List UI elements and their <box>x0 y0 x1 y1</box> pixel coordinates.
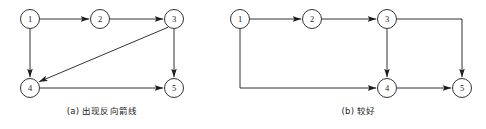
node-a-5[interactable]: 5 <box>165 79 184 98</box>
node-a-3-label: 3 <box>172 14 176 24</box>
edge-a-3-to-4-reverse <box>39 27 168 82</box>
panel-b-edges <box>240 19 462 88</box>
node-b-3-label: 3 <box>385 14 389 24</box>
panel-a-edges <box>30 19 174 88</box>
node-b-2[interactable]: 2 <box>303 10 322 29</box>
panel-b-caption: (b) 较好 <box>243 104 474 116</box>
node-a-1-label: 1 <box>28 14 32 24</box>
node-a-5-label: 5 <box>172 83 176 93</box>
node-b-5-label: 5 <box>460 83 464 93</box>
edge-b-1-to-4 <box>240 29 376 88</box>
edge-b-3-to-5 <box>397 19 462 77</box>
node-b-3[interactable]: 3 <box>378 10 397 29</box>
panel-a-caption: (a) 出现反向箭线 <box>0 104 204 116</box>
node-a-3[interactable]: 3 <box>165 10 184 29</box>
figure-root: 1 2 3 4 5 <box>0 0 486 129</box>
node-a-2[interactable]: 2 <box>91 10 110 29</box>
node-b-5[interactable]: 5 <box>453 79 472 98</box>
panel-b-nodes: 1 2 3 4 5 <box>231 10 472 98</box>
node-a-4[interactable]: 4 <box>21 79 40 98</box>
node-b-2-label: 2 <box>310 14 314 24</box>
node-a-2-label: 2 <box>98 14 102 24</box>
node-b-1[interactable]: 1 <box>231 10 250 29</box>
node-b-4[interactable]: 4 <box>378 79 397 98</box>
node-b-1-label: 1 <box>238 14 242 24</box>
panel-a-nodes: 1 2 3 4 5 <box>21 10 184 98</box>
node-a-1[interactable]: 1 <box>21 10 40 29</box>
